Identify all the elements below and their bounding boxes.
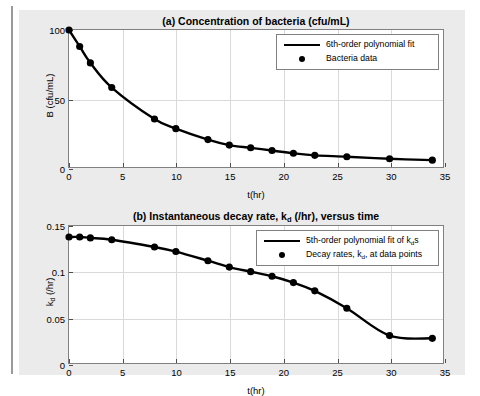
x-tickmark — [445, 359, 446, 363]
data-point-marker — [429, 335, 436, 342]
x-tickmark — [445, 163, 446, 167]
chart-a-y-axis-label: B (cfu/mL) — [44, 56, 55, 136]
chart-a-x-axis-label: t(hr) — [69, 189, 443, 200]
chart-b-x-axis-label: t(hr) — [69, 385, 443, 396]
chart-b-title: (b) Instantaneous decay rate, kd (/hr), … — [69, 210, 443, 224]
data-point-marker — [204, 257, 211, 264]
x-tick-label: 25 — [332, 171, 343, 182]
data-point-marker — [386, 332, 393, 339]
data-point-marker — [108, 236, 115, 243]
line-swatch-icon — [281, 44, 323, 47]
x-tick-label: 5 — [120, 367, 125, 378]
y-tickmark — [69, 365, 73, 366]
x-tick-label: 20 — [279, 367, 290, 378]
legend-label-fit: 5th-order polynomial fit of kds — [303, 236, 419, 246]
y-tick-label: 0.05 — [47, 313, 66, 324]
data-point-marker — [76, 43, 83, 50]
data-point-marker — [386, 155, 393, 162]
data-point-marker — [429, 157, 436, 164]
dot-marker-icon — [281, 56, 323, 63]
data-point-marker — [290, 279, 297, 286]
x-tick-label: 0 — [66, 367, 71, 378]
x-tick-label: 15 — [225, 367, 236, 378]
data-point-marker — [204, 136, 211, 143]
y-tickmark — [69, 169, 73, 170]
x-tick-label: 25 — [332, 367, 343, 378]
y-tick-label: 50 — [54, 94, 65, 105]
x-tick-label: 20 — [279, 171, 290, 182]
data-point-marker — [108, 84, 115, 91]
chart-a-legend: 6th-order polynomial fit Bacteria data — [276, 34, 439, 70]
legend-entry-fit: 5th-order polynomial fit of kds — [261, 234, 432, 248]
data-point-marker — [65, 26, 72, 33]
y-tick-label: 100 — [49, 25, 65, 36]
page-left-rule — [11, 6, 13, 374]
x-tick-label: 30 — [386, 171, 397, 182]
data-point-marker — [311, 287, 318, 294]
chart-b-legend: 5th-order polynomial fit of kds Decay ra… — [256, 230, 439, 266]
data-point-marker — [311, 152, 318, 159]
data-point-marker — [343, 305, 350, 312]
data-point-marker — [151, 116, 158, 123]
x-tick-label: 10 — [171, 171, 182, 182]
data-point-marker — [268, 273, 275, 280]
data-point-marker — [87, 59, 94, 66]
clipped-top-text — [26, 0, 456, 4]
legend-entry-data: Bacteria data — [281, 52, 432, 66]
x-tick-label: 35 — [440, 367, 451, 378]
legend-entry-fit: 6th-order polynomial fit — [281, 38, 432, 52]
data-point-marker — [247, 144, 254, 151]
x-tick-label: 5 — [120, 171, 125, 182]
data-point-marker — [226, 142, 233, 149]
data-point-marker — [343, 153, 350, 160]
data-point-marker — [151, 243, 158, 250]
chart-b-axes: (b) Instantaneous decay rate, kd (/hr), … — [68, 225, 444, 364]
y-tick-label: 0 — [60, 164, 65, 175]
y-tick-label: 0.1 — [52, 267, 65, 278]
data-point-marker — [65, 233, 72, 240]
legend-label-fit: 6th-order polynomial fit — [323, 40, 414, 49]
x-tick-label: 30 — [386, 367, 397, 378]
dot-marker-icon — [261, 252, 303, 259]
data-point-marker — [268, 147, 275, 154]
data-point-marker — [172, 125, 179, 132]
y-tick-label: 0.15 — [47, 221, 66, 232]
line-swatch-icon — [261, 240, 303, 243]
chart-a-axes: (a) Concentration of bacteria (cfu/mL) B… — [68, 29, 444, 168]
data-point-marker — [290, 150, 297, 157]
data-point-marker — [87, 234, 94, 241]
x-tick-label: 10 — [171, 367, 182, 378]
legend-label-data: Bacteria data — [323, 54, 377, 63]
data-point-marker — [226, 264, 233, 271]
x-tick-label: 0 — [66, 171, 71, 182]
chart-a-title: (a) Concentration of bacteria (cfu/mL) — [69, 15, 443, 27]
x-tick-label: 15 — [225, 171, 236, 182]
data-point-marker — [172, 248, 179, 255]
matlab-figure: (a) Concentration of bacteria (cfu/mL) B… — [19, 10, 465, 375]
y-tick-label: 0 — [60, 360, 65, 371]
data-point-marker — [247, 268, 254, 275]
legend-label-data: Decay rates, kd, at data points — [303, 250, 422, 260]
legend-entry-data: Decay rates, kd, at data points — [261, 248, 432, 262]
data-point-marker — [76, 233, 83, 240]
x-tick-label: 35 — [440, 171, 451, 182]
